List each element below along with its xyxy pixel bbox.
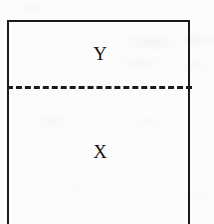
lower-region-label: X	[80, 142, 120, 161]
dashed-partition-divider	[7, 86, 192, 89]
figure-canvas: Y X	[0, 0, 214, 224]
upper-region-label: Y	[80, 44, 120, 63]
